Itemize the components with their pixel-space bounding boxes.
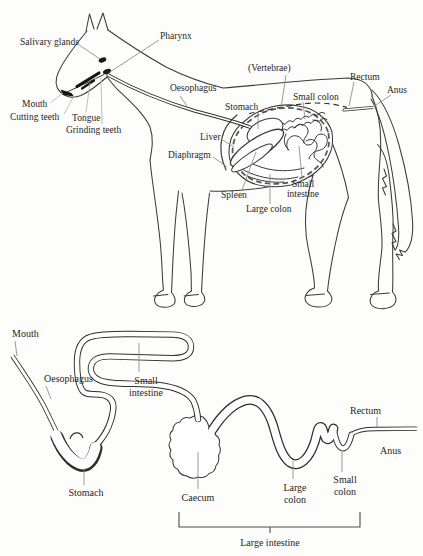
leader-vertebrae	[281, 75, 286, 108]
horse-ear-left	[86, 14, 94, 31]
label-diaphragm: Diaphragm	[168, 150, 211, 160]
label-pharynx: Pharynx	[160, 31, 192, 41]
horse-throat-chest-outline	[107, 77, 152, 160]
label-liver: Liver	[200, 132, 221, 142]
large-intestine-bracket	[179, 512, 360, 533]
tail-tip-mark	[396, 250, 405, 260]
leader-tongue	[86, 83, 90, 112]
head-marks	[61, 56, 112, 96]
label-oesophagus-b: Oesophagus	[44, 373, 93, 384]
oesophagus-schematic-lumen	[12, 355, 62, 442]
tail-hair-mark-1	[383, 169, 387, 195]
label-large-intestine: Large intestine	[240, 537, 300, 548]
label-grinding-teeth: Grinding teeth	[66, 125, 121, 135]
label-anus-b: Anus	[380, 445, 401, 456]
leader-mouth-b	[15, 341, 17, 356]
label-small-intestine-b-line2: intestine	[129, 387, 163, 398]
label-large-colon-top: Large colon	[246, 204, 292, 214]
hoof-lines	[154, 293, 390, 296]
label-small-colon-b-line2: colon	[334, 486, 356, 497]
label-mouth-top: Mouth	[22, 99, 48, 109]
label-large-colon-b-line1: Large	[283, 482, 307, 493]
horse-neck-back-outline	[108, 30, 372, 96]
horse-foreleg-near	[150, 160, 179, 307]
label-vertebrae: (Vertebrae)	[248, 63, 291, 74]
label-large-colon-b-line2: colon	[284, 494, 306, 505]
leader-salivary-glands	[79, 45, 100, 59]
horse-ear-right	[97, 13, 108, 30]
leader-rectum-top	[349, 82, 354, 106]
horse-digestive-system-diagram: Salivary glands Pharynx (Vertebrae) Rect…	[0, 0, 423, 556]
leader-oesophagus-top	[180, 96, 187, 106]
stomach-schematic-lumen	[56, 435, 96, 464]
label-small-intestine-top-line1: Small	[292, 179, 315, 189]
label-rectum-top: Rectum	[350, 72, 380, 82]
label-small-colon-top: Small colon	[293, 92, 339, 102]
labels-top: Salivary glands Pharynx (Vertebrae) Rect…	[10, 31, 407, 214]
leader-oesophagus-b	[46, 386, 51, 399]
leader-mouth	[50, 93, 63, 103]
stomach-top-notch	[70, 433, 83, 439]
leader-grinding-teeth	[101, 78, 102, 124]
label-small-intestine-top-line2: intestine	[287, 189, 319, 199]
label-small-intestine-b-line1: Small	[134, 375, 158, 386]
salivary-gland-dot-upper	[98, 56, 107, 63]
label-anus-top: Anus	[387, 85, 407, 95]
diagram-page: Salivary glands Pharynx (Vertebrae) Rect…	[0, 0, 423, 556]
label-stomach-top: Stomach	[225, 102, 258, 112]
leader-diaphragm	[213, 157, 227, 167]
horse-thigh-line	[331, 140, 349, 198]
label-caecum: Caecum	[182, 492, 215, 503]
label-salivary-glands: Salivary glands	[20, 37, 79, 47]
horse-hindleg-far	[370, 96, 396, 309]
leader-pharynx	[110, 40, 159, 72]
leader-cutting-teeth	[64, 96, 74, 114]
rectum-schematic-lumen	[352, 429, 420, 435]
leaders-top	[50, 40, 391, 204]
label-rectum-b: Rectum	[350, 405, 381, 416]
leader-anus-top	[373, 95, 391, 107]
label-mouth-b: Mouth	[12, 328, 39, 339]
label-oesophagus-top: Oesophagus	[170, 83, 217, 93]
horse-foreleg-far	[182, 193, 210, 306]
label-small-colon-b-line1: Small	[333, 474, 357, 485]
label-stomach-b: Stomach	[69, 487, 104, 498]
label-cutting-teeth: Cutting teeth	[10, 112, 60, 122]
large-colon-schematic-lumen	[212, 400, 334, 464]
mouth-tract-line	[67, 75, 104, 93]
label-spleen: Spleen	[221, 190, 247, 200]
label-tongue: Tongue	[72, 113, 100, 123]
